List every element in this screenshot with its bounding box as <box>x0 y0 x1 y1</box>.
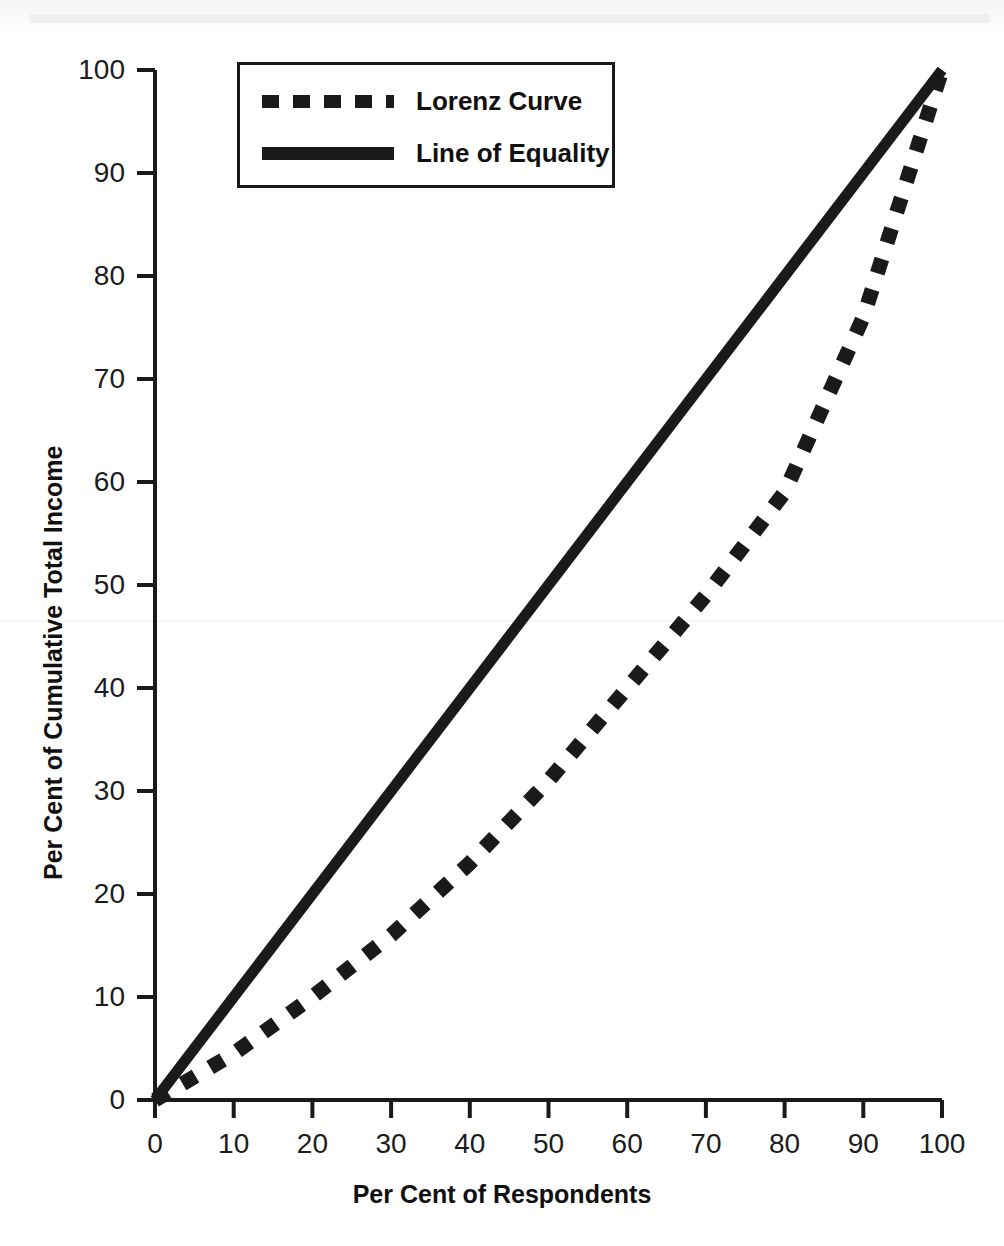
x-tick-label: 20 <box>297 1128 328 1160</box>
lorenz-curve-figure: 0102030405060708090100 01020304050607080… <box>0 0 1004 1246</box>
x-tick-label: 0 <box>147 1128 163 1160</box>
legend-label-line-of-equality: Line of Equality <box>416 138 610 169</box>
y-tick-label: 100 <box>0 54 125 86</box>
legend-label-lorenz-curve: Lorenz Curve <box>416 86 582 117</box>
x-tick-label: 50 <box>533 1128 564 1160</box>
y-tick-label: 80 <box>0 260 125 292</box>
x-axis-title: Per Cent of Respondents <box>0 1180 1004 1209</box>
data-series-group <box>155 70 942 1100</box>
x-tick-label: 80 <box>769 1128 800 1160</box>
x-tick-label: 40 <box>454 1128 485 1160</box>
legend-item-lorenz-curve: Lorenz Curve <box>240 81 612 121</box>
y-axis-title: Per Cent of Cumulative Total Income <box>39 446 68 880</box>
chart-legend: Lorenz Curve Line of Equality <box>237 62 615 188</box>
x-tick-label: 100 <box>919 1128 966 1160</box>
y-tick-label: 70 <box>0 363 125 395</box>
y-tick-label: 10 <box>0 981 125 1013</box>
x-tick-label: 10 <box>218 1128 249 1160</box>
x-tick-label: 90 <box>848 1128 879 1160</box>
x-tick-label: 60 <box>612 1128 643 1160</box>
x-tick-label: 70 <box>690 1128 721 1160</box>
solid-line-swatch-icon <box>262 147 394 160</box>
legend-item-line-of-equality: Line of Equality <box>240 133 612 173</box>
x-tick-label: 30 <box>376 1128 407 1160</box>
y-tick-label: 20 <box>0 878 125 910</box>
series-line-of-equality <box>155 70 942 1100</box>
y-tick-label: 90 <box>0 157 125 189</box>
dashed-line-swatch-icon <box>262 95 394 108</box>
y-tick-label: 0 <box>0 1084 125 1116</box>
